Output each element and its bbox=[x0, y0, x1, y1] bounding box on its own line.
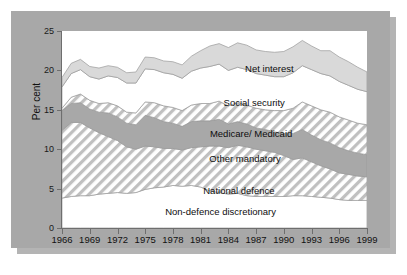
x-tick-label-1975: 1975 bbox=[135, 234, 156, 245]
x-axis-line bbox=[61, 228, 368, 229]
y-axis-title: Per cent bbox=[31, 62, 42, 142]
x-tick-label-1981: 1981 bbox=[190, 234, 211, 245]
x-tick-label-1990: 1990 bbox=[273, 234, 294, 245]
series-label-social-security: Social security bbox=[224, 96, 285, 107]
y-axis-line bbox=[61, 31, 62, 229]
x-tick-label-1972: 1972 bbox=[107, 234, 128, 245]
series-label-other-mandatory: Other mandatory bbox=[209, 153, 280, 164]
chart-figure: 0510152025 19661969197219751978198119841… bbox=[0, 0, 407, 275]
x-tick-label-1966: 1966 bbox=[51, 234, 72, 245]
x-tick-label-1996: 1996 bbox=[329, 234, 350, 245]
y-tick-25 bbox=[57, 31, 61, 32]
y-tick-10 bbox=[57, 149, 61, 150]
x-tick-label-1978: 1978 bbox=[162, 234, 183, 245]
y-tick-label-5: 5 bbox=[49, 184, 54, 194]
x-tick-label-1993: 1993 bbox=[301, 234, 322, 245]
series-label-non-defence-discretionary: Non-defence discretionary bbox=[165, 206, 276, 217]
series-label-medicare-medicaid: Medicare/ Medicaid bbox=[210, 128, 292, 139]
x-tick-label-1987: 1987 bbox=[246, 234, 267, 245]
x-tick-label-1969: 1969 bbox=[79, 234, 100, 245]
y-tick-label-20: 20 bbox=[44, 65, 54, 75]
y-tick-15 bbox=[57, 110, 61, 111]
y-tick-5 bbox=[57, 189, 61, 190]
series-label-net-interest: Net interest bbox=[245, 63, 294, 74]
x-tick-label-1984: 1984 bbox=[218, 234, 239, 245]
y-tick-0 bbox=[57, 228, 61, 229]
series-label-national-defence: National defence bbox=[203, 184, 274, 195]
y-tick-label-15: 15 bbox=[44, 105, 54, 115]
y-tick-label-25: 25 bbox=[44, 26, 54, 36]
y-tick-label-10: 10 bbox=[44, 144, 54, 154]
x-tick-label-1999: 1999 bbox=[356, 234, 377, 245]
y-tick-label-0: 0 bbox=[49, 223, 54, 233]
y-tick-20 bbox=[57, 70, 61, 71]
x-axis-labels: 1966196919721975197819811984198719901993… bbox=[0, 234, 407, 250]
